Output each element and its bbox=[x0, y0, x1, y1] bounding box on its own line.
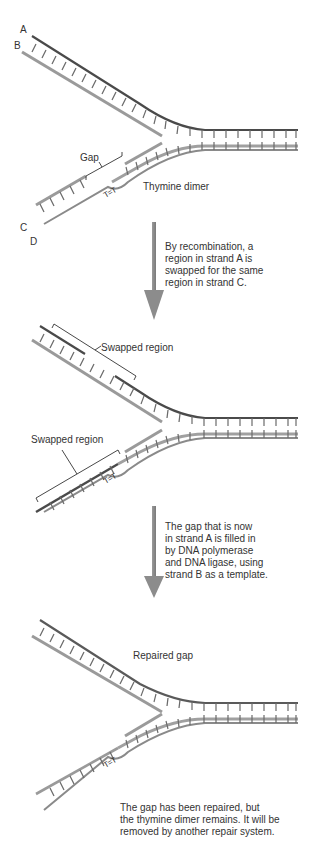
step-1-caption: By recombination, a region in strand A i… bbox=[165, 241, 263, 289]
repaired-gap-label: Repaired gap bbox=[133, 650, 193, 662]
strand-label-d: D bbox=[30, 236, 37, 248]
final-caption: The gap has been repaired, but the thymi… bbox=[120, 802, 280, 838]
step-arrow-1 bbox=[144, 222, 164, 320]
step-2-caption: The gap that is now in strand A is fille… bbox=[165, 521, 268, 581]
thymine-dimer-label: Thymine dimer bbox=[143, 181, 209, 193]
strand-label-a: A bbox=[20, 24, 27, 36]
panel-initial bbox=[22, 36, 298, 224]
swapped-segment bbox=[36, 464, 118, 512]
swapped-region-top-label: Swapped region bbox=[101, 342, 173, 354]
strand-b-lower bbox=[112, 146, 298, 182]
gap-bracket-stem bbox=[99, 162, 102, 167]
strand-c-left bbox=[36, 176, 86, 205]
swapped-region-bottom-label: Swapped region bbox=[31, 434, 103, 446]
dna-repair-diagram bbox=[0, 0, 319, 846]
strand-label-b: B bbox=[14, 40, 21, 52]
strand-label-c: C bbox=[20, 222, 27, 234]
gap-label: Gap bbox=[80, 152, 99, 164]
strand-b bbox=[22, 52, 162, 136]
panel-repaired bbox=[32, 620, 298, 810]
step-arrow-2 bbox=[144, 506, 164, 598]
